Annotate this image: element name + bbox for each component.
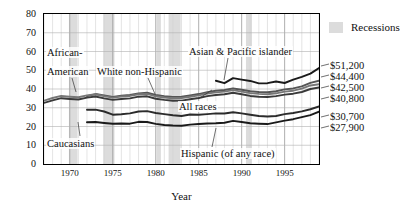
- y-tick-label: 40: [10, 84, 36, 94]
- x-axis-title: Year: [43, 190, 320, 202]
- x-tick-label: 1985: [179, 169, 219, 178]
- y-tick-label: 20: [10, 122, 36, 132]
- x-tick-label: 1970: [50, 169, 90, 178]
- end-value-leader: [321, 86, 329, 88]
- y-tick-label: 30: [10, 103, 36, 113]
- cropped-title: [80, 0, 320, 2]
- end-value-leader: [321, 75, 329, 77]
- y-tick-label: 0: [10, 159, 36, 169]
- end-value-leader: [321, 115, 329, 117]
- x-tick-label: 1990: [222, 169, 262, 178]
- annotation-asian-pacific-islander: Asian & Pacific islander: [188, 46, 293, 57]
- x-tick-label: 1975: [93, 169, 133, 178]
- end-value-leader: [321, 64, 329, 66]
- end-value-label: $27,900: [330, 122, 364, 134]
- y-tick-label: 70: [10, 28, 36, 38]
- y-tick-label: 10: [10, 140, 36, 150]
- y-tick-label: 80: [10, 9, 36, 19]
- y-tick-label: 50: [10, 65, 36, 75]
- recession-swatch: [329, 22, 343, 33]
- x-tick-label: 1980: [136, 169, 176, 178]
- annotation-all-races: All races: [178, 101, 218, 112]
- annotation-african-american-line2: American: [46, 66, 89, 77]
- y-tick-label: 60: [10, 47, 36, 57]
- end-value-leader: [321, 97, 329, 99]
- annotation-hispanic: Hispanic (of any race): [180, 148, 276, 159]
- x-tick-label: 1995: [265, 169, 305, 178]
- end-value-leader: [321, 126, 329, 128]
- annotation-white-non-hispanic: White non-Hispanic: [96, 66, 183, 77]
- annotation-african-american-line1: African-: [46, 47, 84, 58]
- end-value-label: $40,800: [330, 93, 364, 105]
- recession-legend-label: Recessions: [351, 21, 400, 33]
- annotation-caucasians: Caucasians: [46, 138, 95, 149]
